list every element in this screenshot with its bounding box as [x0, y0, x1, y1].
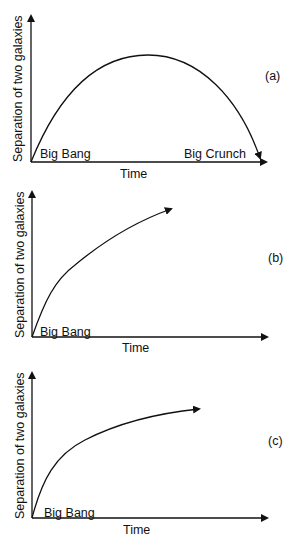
big-bang-label: Big Bang — [40, 325, 91, 339]
panel-b: Separation of two galaxies Big Bang Time… — [13, 191, 283, 355]
curve-flat-universe — [32, 409, 199, 518]
x-axis-label: Time — [122, 341, 149, 355]
curve-closed-universe — [31, 55, 260, 162]
x-axis-label: Time — [123, 523, 150, 537]
panel-label: (b) — [268, 251, 283, 265]
y-axis-label: Separation of two galaxies — [13, 191, 27, 338]
curve-open-universe — [32, 209, 171, 337]
big-crunch-label: Big Crunch — [184, 147, 246, 161]
panel-a: Separation of two galaxies Big Bang Big … — [11, 15, 280, 181]
big-bang-label: Big Bang — [40, 147, 91, 161]
panel-label: (c) — [268, 434, 283, 448]
x-axis-label: Time — [120, 167, 147, 181]
universe-expansion-diagram: Separation of two galaxies Big Bang Big … — [0, 0, 296, 546]
y-axis-label: Separation of two galaxies — [11, 15, 25, 162]
panel-label: (a) — [265, 69, 280, 83]
y-axis-label: Separation of two galaxies — [13, 372, 27, 519]
big-bang-label: Big Bang — [44, 506, 95, 520]
panel-c: Separation of two galaxies Big Bang Time… — [13, 372, 283, 537]
